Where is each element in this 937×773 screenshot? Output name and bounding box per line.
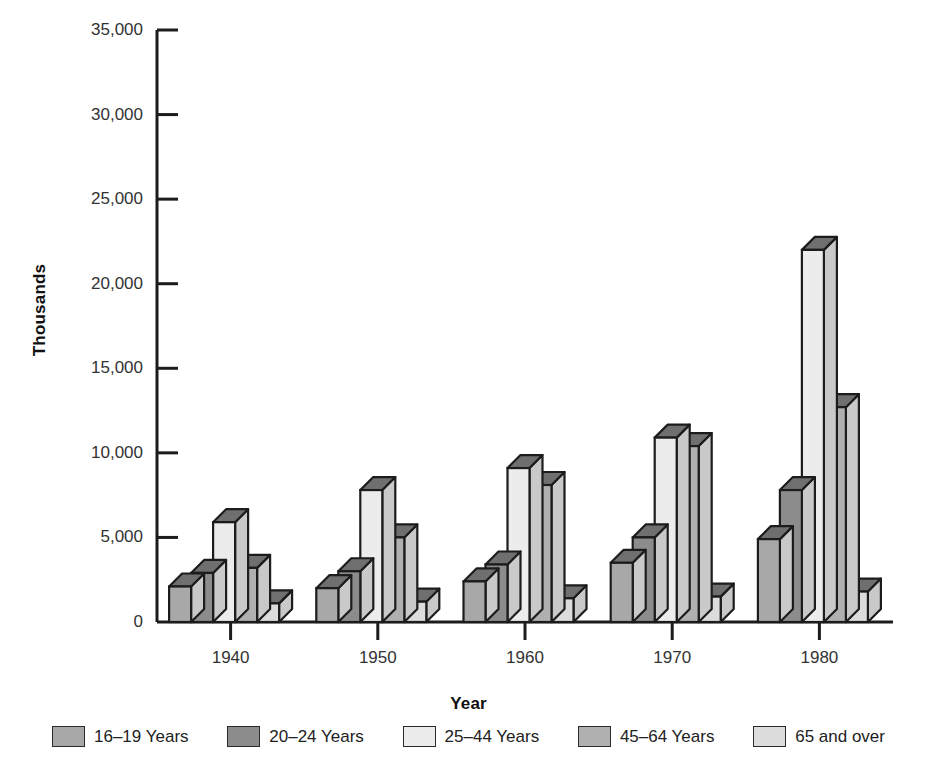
legend-swatch <box>227 726 260 747</box>
legend-swatch <box>403 726 436 747</box>
plot-area <box>0 0 937 773</box>
bar <box>316 575 351 622</box>
legend-label: 45–64 Years <box>620 727 715 747</box>
legend-label: 20–24 Years <box>269 727 364 747</box>
bar-groups <box>169 237 881 640</box>
legend-label: 25–44 Years <box>445 727 540 747</box>
legend-item[interactable]: 25–44 Years <box>403 726 540 747</box>
legend-item[interactable]: 16–19 Years <box>52 726 189 747</box>
legend-label: 65 and over <box>795 727 885 747</box>
legend-swatch <box>753 726 786 747</box>
legend-label: 16–19 Years <box>94 727 189 747</box>
bar-chart: Thousands Year 05,00010,00015,00020,0002… <box>0 0 937 773</box>
bar <box>611 550 646 622</box>
chart-legend: 16–19 Years20–24 Years25–44 Years45–64 Y… <box>0 726 937 747</box>
bar <box>464 568 499 622</box>
legend-item[interactable]: 45–64 Years <box>578 726 715 747</box>
legend-swatch <box>578 726 611 747</box>
legend-item[interactable]: 20–24 Years <box>227 726 364 747</box>
y-axis-ticks <box>157 30 178 537</box>
legend-swatch <box>52 726 85 747</box>
bar <box>169 573 204 622</box>
bar <box>758 526 793 622</box>
legend-item[interactable]: 65 and over <box>753 726 885 747</box>
